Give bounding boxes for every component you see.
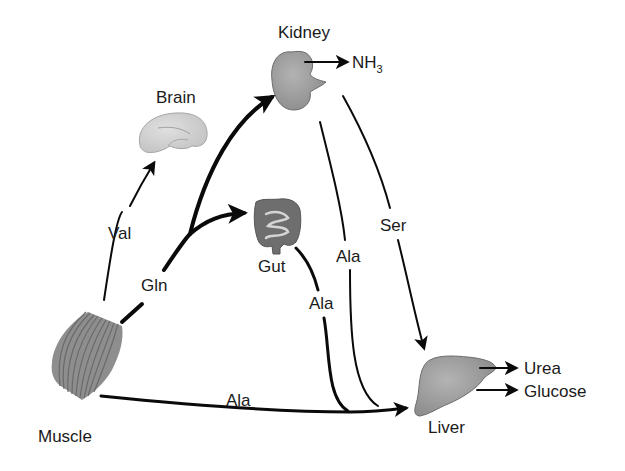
brain: Brain (139, 88, 207, 153)
ala-muscle-arrow (101, 396, 406, 412)
ala-kidney-arrow-lower (350, 270, 378, 406)
glucose-label: Glucose (524, 382, 586, 401)
liver-label: Liver (428, 418, 465, 437)
kidney: Kidney (272, 23, 331, 110)
kidney-icon (272, 51, 326, 110)
ala-gut-arrow-upper (296, 248, 318, 290)
ser-label: Ser (380, 216, 407, 235)
nh3-label: NH3 (352, 53, 383, 75)
ala-gut-arrow-lower (324, 318, 348, 411)
brain-icon (139, 113, 207, 153)
muscle-label: Muscle (38, 427, 92, 446)
ser-arrow-lower (398, 240, 424, 348)
kidney-label: Kidney (278, 23, 330, 42)
val-arrow-upper (130, 163, 154, 206)
ala-kidney-label: Ala (336, 247, 361, 266)
gln-to-gut-arrow (190, 213, 244, 234)
muscle: Muscle (38, 312, 123, 446)
gut: Gut (254, 199, 301, 276)
gut-label: Gut (258, 257, 286, 276)
amino-acid-flow-diagram: Kidney NH3 Brain Gut Muscle (0, 0, 625, 471)
gln-arrow-lower (122, 304, 142, 322)
brain-label: Brain (156, 88, 196, 107)
ala-muscle-label: Ala (226, 391, 251, 410)
gln-label: Gln (141, 276, 167, 295)
urea-label: Urea (524, 359, 561, 378)
ser-arrow-upper (343, 96, 390, 208)
ala-kidney-arrow-upper (320, 122, 345, 240)
ala-gut-label: Ala (309, 294, 334, 313)
liver-icon (415, 356, 496, 416)
val-label: Val (108, 224, 131, 243)
